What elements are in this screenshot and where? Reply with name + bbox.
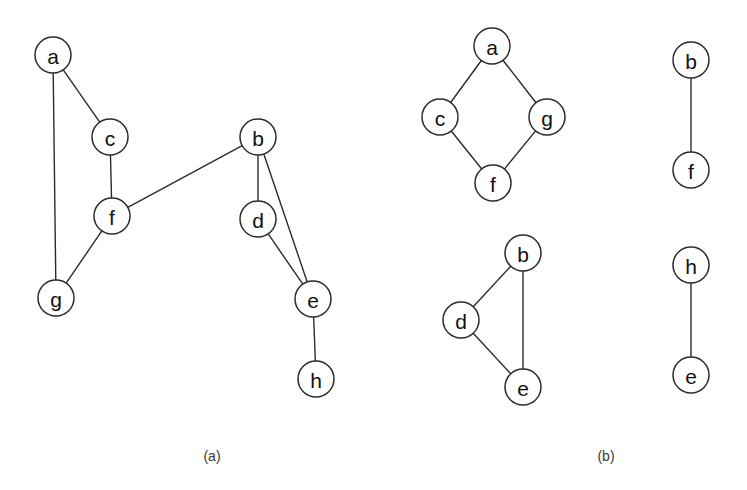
nodes-layer: acfgbdehacgfbdebfhe bbox=[35, 28, 709, 405]
node-circle-h bbox=[298, 361, 334, 397]
graph-node-b1_a: a bbox=[474, 28, 510, 64]
graph-edge-c-f bbox=[110, 155, 111, 198]
graph-edge-b1_a-b1_g bbox=[503, 60, 536, 103]
node-circle-b bbox=[240, 119, 276, 155]
graph-node-a: a bbox=[35, 37, 71, 73]
graph-node-b3_f: f bbox=[673, 152, 709, 188]
graph-node-c: c bbox=[92, 119, 128, 155]
graph-node-b2_d: d bbox=[443, 302, 479, 338]
graph-edge-f-g bbox=[66, 231, 102, 283]
graph-node-b2_e: e bbox=[505, 369, 541, 405]
node-circle-b4_h bbox=[673, 247, 709, 283]
graph-node-b4_h: h bbox=[673, 247, 709, 283]
graph-edge-b1_g-b1_f bbox=[504, 131, 535, 169]
node-circle-f bbox=[94, 198, 130, 234]
graph-edge-a-g bbox=[53, 73, 56, 280]
graph-edge-b2_d-b2_e bbox=[473, 333, 511, 374]
figure-root: acfgbdehacgfbdebfhe (a)(b) bbox=[0, 0, 747, 490]
panel-caption-panel-b: (b) bbox=[597, 448, 614, 464]
graph-edge-b1_a-b1_c bbox=[451, 61, 482, 103]
node-circle-b4_e bbox=[673, 357, 709, 393]
node-circle-a bbox=[35, 37, 71, 73]
node-circle-b3_b bbox=[673, 42, 709, 78]
node-circle-b1_g bbox=[529, 99, 565, 135]
graph-edge-d-e bbox=[268, 234, 303, 284]
graph-node-b2_b: b bbox=[505, 235, 541, 271]
graph-node-b1_g: g bbox=[529, 99, 565, 135]
graph-node-d: d bbox=[240, 201, 276, 237]
node-circle-b3_f bbox=[673, 152, 709, 188]
graph-node-f: f bbox=[94, 198, 130, 234]
panel-caption-panel-a: (a) bbox=[203, 448, 220, 464]
graph-edge-b2_b-b2_d bbox=[473, 266, 511, 307]
graph-node-g: g bbox=[38, 280, 74, 316]
graph-node-b1_c: c bbox=[422, 99, 458, 135]
node-circle-b2_d bbox=[443, 302, 479, 338]
graph-node-b: b bbox=[240, 119, 276, 155]
node-circle-g bbox=[38, 280, 74, 316]
graph-node-b4_e: e bbox=[673, 357, 709, 393]
graph-node-h: h bbox=[298, 361, 334, 397]
node-circle-b2_b bbox=[505, 235, 541, 271]
graph-edge-e-h bbox=[314, 317, 316, 361]
graph-figure-canvas: acfgbdehacgfbdebfhe (a)(b) bbox=[0, 0, 747, 490]
graph-edge-a-c bbox=[63, 70, 99, 122]
node-circle-c bbox=[92, 119, 128, 155]
node-circle-e bbox=[295, 281, 331, 317]
captions-layer: (a)(b) bbox=[203, 448, 614, 464]
node-circle-b1_a bbox=[474, 28, 510, 64]
node-circle-b1_c bbox=[422, 99, 458, 135]
edges-layer bbox=[53, 60, 691, 374]
node-circle-b2_e bbox=[505, 369, 541, 405]
node-circle-d bbox=[240, 201, 276, 237]
graph-node-e: e bbox=[295, 281, 331, 317]
graph-edge-b1_c-b1_f bbox=[451, 131, 481, 169]
graph-node-b1_f: f bbox=[475, 165, 511, 201]
graph-edge-f-b bbox=[128, 146, 242, 208]
graph-node-b3_b: b bbox=[673, 42, 709, 78]
node-circle-b1_f bbox=[475, 165, 511, 201]
